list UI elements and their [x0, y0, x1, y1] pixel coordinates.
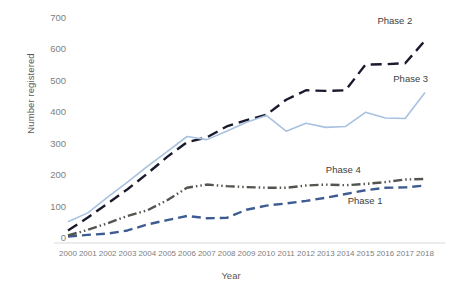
series-label-phase-2: Phase 2	[377, 15, 412, 26]
series-line-phase-1	[68, 186, 425, 237]
x-tick-2018: 2018	[412, 249, 438, 259]
series-label-phase-1: Phase 1	[348, 195, 383, 206]
x-axis-tick-labels: 2000200120022003200420052006200720082009…	[0, 249, 462, 263]
x-axis-title: Year	[0, 270, 462, 281]
series-label-phase-4: Phase 4	[326, 164, 361, 175]
plot-area	[0, 0, 462, 288]
series-label-phase-3: Phase 3	[393, 73, 428, 84]
line-chart: Number registered 7006005004003002001000…	[0, 0, 462, 288]
